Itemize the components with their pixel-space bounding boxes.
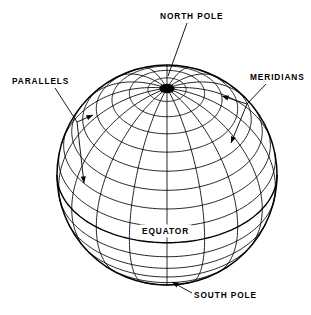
leader-meridians-stem — [247, 84, 266, 104]
meridian-340 — [129, 88, 167, 282]
leader-parallels-a-head — [86, 115, 93, 120]
leader-meridians-a-head — [222, 96, 229, 101]
label-south-pole: SOUTH POLE — [194, 290, 257, 300]
meridian-20 — [167, 88, 205, 282]
globe-diagram: NORTH POLE PARALLELS MERIDIANS EQUATOR S… — [0, 0, 311, 315]
label-equator: EQUATOR — [142, 226, 189, 236]
leader-parallels-b-head — [81, 176, 86, 183]
label-north-pole: NORTH POLE — [160, 11, 223, 21]
label-meridians: MERIDIANS — [250, 72, 305, 82]
globe-wireframe — [57, 65, 277, 285]
leader-meridians-b-head — [231, 136, 236, 143]
north-pole-cap — [159, 84, 174, 93]
label-parallels: PARALLELS — [12, 76, 69, 86]
leader-parallels-stem — [55, 88, 77, 122]
